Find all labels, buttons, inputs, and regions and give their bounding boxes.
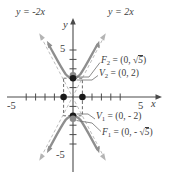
y-axis-label-text: y [63,19,68,30]
x-tick-label-5: 5 [138,101,143,112]
focus-F1-close: ) [149,127,152,137]
x-tick-label-neg5: -5 [7,101,16,112]
b-point-right-dot [79,94,86,101]
asymptote-arrow-lower-right [100,153,106,161]
x-tick-5-text: 5 [138,100,143,111]
asymptote-arrow-upper-left [39,33,45,41]
x-axis-arrow [156,94,163,100]
x-axis-label: x [151,99,156,110]
focus-F2-close: ) [143,55,146,65]
y-tick-5-text: 5 [60,43,65,54]
asymptote-arrow-upper-right [100,33,106,41]
y-tick-neg5-text: -5 [56,149,65,160]
asymptote-left-label: y = -2x [16,7,45,17]
graph-canvas [0,0,169,182]
focus-F2-label: F2 = (0, √5) [101,55,146,66]
y-axis-arrow [70,18,76,25]
lower-branch-arrow-left [47,146,53,153]
x-tick-neg5-text: -5 [7,100,16,111]
hyperbola-figure: y = -2x y = 2x y x 5 -5 -5 5 F2 = (0, √5… [0,0,169,182]
asymptote-arrow-lower-left [39,153,45,161]
vertex-V1-label: V1 = (0, - 2) [96,112,141,122]
focus-F2-eq: = (0, [110,55,133,65]
y-axis-label: y [63,20,68,31]
focus-F1-label: F1 = (0, - √5) [102,127,153,138]
y-tick-label-5: 5 [60,44,65,55]
focus-F1-eq: = (0, - [111,127,139,137]
asymptote-left-text: y = -2x [16,6,45,17]
asymptote-right-label: y = 2x [108,7,134,17]
vertex-V2-dot [70,75,77,82]
vertex-V2-eq: = (0, 2) [108,68,139,78]
vertex-V2-label: V2 = (0, 2) [99,69,139,79]
asymptote-right-text: y = 2x [108,6,134,17]
focus-F1-dot [70,116,77,123]
vertex-V1-eq: = (0, - 2) [105,111,141,121]
b-point-left-dot [60,94,67,101]
x-axis-label-text: x [151,98,156,109]
y-tick-label-neg5: -5 [56,150,65,161]
upper-branch-arrow-left [47,41,53,48]
